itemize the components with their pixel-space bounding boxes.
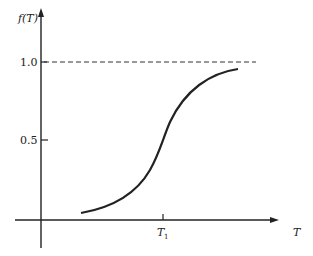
y-axis-arrow-icon: [38, 8, 44, 17]
y-axis-label: f(T): [17, 12, 38, 25]
tick-label-1-0: 1.0: [20, 56, 38, 69]
tick-label-t1-subscript: 1: [164, 233, 168, 241]
sigmoid-chart: f(T) 1.0 0.5 T 1 T: [0, 0, 313, 256]
sigmoid-curve: [81, 69, 238, 213]
x-axis-arrow-icon: [270, 217, 279, 223]
tick-label-0-5: 0.5: [20, 134, 38, 147]
x-axis-label: T: [293, 226, 302, 239]
